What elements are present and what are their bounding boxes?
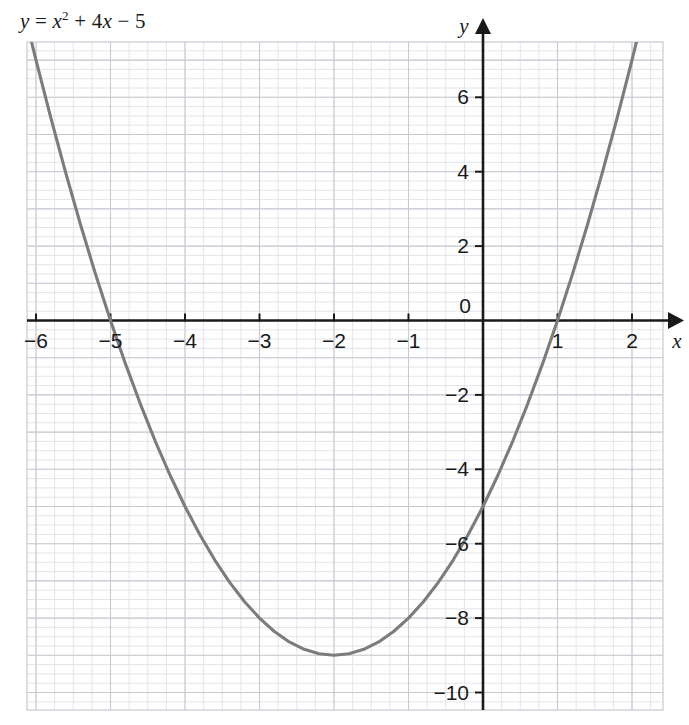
plot-area: −6−5−4−3−2−1012642−2−4−6−8−10 xy bbox=[0, 0, 689, 725]
x-tick-label: −1 bbox=[397, 329, 421, 352]
y-tick-label: −8 bbox=[445, 606, 469, 629]
x-axis-label: x bbox=[671, 329, 682, 353]
y-tick-label: −4 bbox=[445, 457, 469, 480]
y-tick-label: 2 bbox=[457, 234, 469, 257]
y-tick-label: 6 bbox=[457, 85, 469, 108]
x-tick-label: −3 bbox=[248, 329, 272, 352]
x-tick-label: 1 bbox=[552, 329, 564, 352]
y-tick-label: 4 bbox=[457, 160, 469, 183]
y-tick-label: −2 bbox=[445, 383, 469, 406]
y-tick-label: −6 bbox=[445, 532, 469, 555]
x-tick-label: 0 bbox=[459, 294, 471, 317]
x-tick-label: −4 bbox=[173, 329, 197, 352]
minor-gridlines bbox=[27, 42, 663, 710]
x-tick-label: −5 bbox=[99, 329, 123, 352]
y-tick-label: −10 bbox=[433, 681, 469, 704]
x-tick-label: −2 bbox=[322, 329, 346, 352]
y-axis-label: y bbox=[457, 14, 469, 38]
graph-figure: y = x2 + 4x − 5 −6−5−4−3−2−1012642−2−4−6… bbox=[0, 0, 689, 725]
x-tick-label: 2 bbox=[626, 329, 638, 352]
x-tick-label: −6 bbox=[24, 329, 48, 352]
